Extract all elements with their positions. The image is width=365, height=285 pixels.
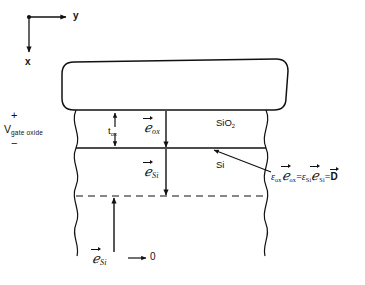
silicon-field-label: ℯSi — [144, 164, 159, 180]
oxide-material-label: SiO2 — [216, 118, 235, 130]
figure-drawing — [0, 0, 365, 285]
gate-electrode-body — [62, 59, 288, 110]
oxide-field-subscript: ox — [152, 127, 160, 136]
right-break-edge — [264, 110, 267, 256]
oxide-thickness-label: tox — [108, 126, 117, 138]
bias-minus-sign: − — [11, 138, 17, 149]
sio2-symbol: SiO — [216, 117, 232, 128]
y-axis-label: y — [73, 11, 79, 21]
silicon-field-subscript: Si — [152, 171, 159, 180]
limit-zero-label: 0 — [150, 252, 156, 262]
voltage-symbol: V — [4, 123, 11, 135]
bulk-field-vector-symbol: ℯ — [92, 251, 100, 265]
bias-plus-sign: + — [11, 110, 17, 121]
silicon-material-label: Si — [216, 160, 224, 170]
gate-oxide-voltage-label: Vgate oxide — [4, 124, 43, 136]
eq-field-ox-symbol: ℯ — [282, 168, 290, 182]
t-ox-subscript: ox — [111, 131, 118, 137]
voltage-subscript: gate oxide — [11, 129, 43, 136]
displacement-vector-symbol: D — [331, 171, 338, 182]
sio2-subscript: 2 — [232, 123, 235, 129]
figure-root: y x + Vgate oxide − tox ℯox ℯSi ℯSi 0 Si… — [0, 0, 365, 285]
bulk-field-subscript: Si — [100, 258, 107, 267]
bulk-silicon-field-label: ℯSi — [92, 251, 107, 267]
eps-ox-subscript: ox — [275, 176, 282, 183]
eq-field-si-symbol: ℯ — [311, 168, 319, 182]
coordinate-axes — [27, 15, 66, 52]
left-break-edge — [74, 110, 77, 256]
oxide-field-vector-symbol: ℯ — [144, 120, 152, 134]
displacement-continuity-equation: εoxℯox=εSiℯSi=D — [271, 168, 338, 183]
oxide-field-label: ℯox — [144, 120, 160, 136]
x-axis-label: x — [25, 57, 31, 67]
silicon-field-vector-symbol: ℯ — [144, 164, 152, 178]
